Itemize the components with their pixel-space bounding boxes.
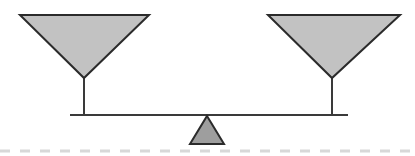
balance-scale-svg	[0, 0, 415, 156]
fulcrum-triangle	[190, 116, 224, 144]
balance-scale-figure	[0, 0, 415, 156]
right-pan-triangle	[268, 15, 400, 78]
left-pan-triangle	[20, 15, 149, 78]
